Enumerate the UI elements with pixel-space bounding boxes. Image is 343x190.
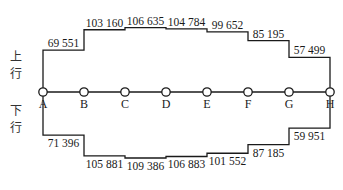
station-label-a: A — [39, 97, 48, 111]
up-flow-label: 99 652 — [212, 19, 244, 31]
up-flow-label: 103 160 — [86, 17, 124, 29]
station-label-c: C — [121, 97, 129, 111]
station-label-b: B — [80, 97, 88, 111]
station-marker-b — [80, 88, 88, 96]
down-flow-label: 87 185 — [253, 147, 285, 159]
up-flow-label: 69 551 — [48, 37, 80, 49]
up-flow-label: 106 635 — [127, 15, 165, 27]
down-direction-label-1: 下 — [10, 104, 22, 118]
up-flow-label: 104 784 — [168, 16, 206, 28]
down-flow-label: 59 951 — [294, 130, 326, 142]
down-flow-label: 101 552 — [209, 155, 247, 167]
down-flow-label: 105 881 — [86, 158, 124, 170]
up-direction-label-2: 行 — [10, 67, 22, 81]
station-label-f: F — [245, 97, 252, 111]
station-marker-e — [203, 88, 211, 96]
passenger-flow-diagram: 69 551103 160106 635104 78499 65285 1955… — [0, 0, 343, 190]
up-step-outline — [43, 28, 330, 92]
down-flow-label: 109 386 — [127, 160, 165, 172]
down-direction-label-2: 行 — [10, 121, 22, 135]
down-flow-label: 71 396 — [48, 137, 80, 149]
station-label-g: G — [285, 97, 294, 111]
station-marker-d — [162, 88, 170, 96]
up-direction-label-1: 上 — [10, 50, 22, 64]
station-label-e: E — [203, 97, 210, 111]
up-direction-flow: 69 551103 160106 635104 78499 65285 1955… — [43, 15, 330, 92]
stations: ABCDEFGH — [39, 88, 335, 111]
station-marker-f — [244, 88, 252, 96]
station-marker-a — [39, 88, 47, 96]
station-label-d: D — [162, 97, 171, 111]
station-marker-h — [326, 88, 334, 96]
station-marker-c — [121, 88, 129, 96]
up-flow-label: 57 499 — [294, 44, 326, 56]
up-flow-label: 85 195 — [253, 28, 285, 40]
station-marker-g — [285, 88, 293, 96]
down-flow-label: 106 883 — [168, 158, 206, 170]
station-label-h: H — [326, 97, 335, 111]
